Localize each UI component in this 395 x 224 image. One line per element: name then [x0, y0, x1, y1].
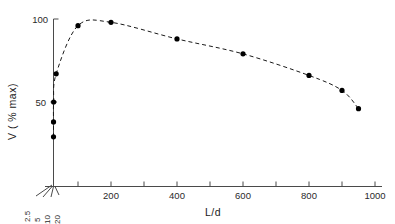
data-point	[51, 119, 56, 124]
origin-label-5: 5	[33, 217, 42, 222]
data-point	[108, 20, 113, 25]
y-axis-title: V ( % max)	[6, 83, 18, 140]
y-tick-label-50: 50	[35, 97, 46, 108]
data-point	[306, 73, 311, 78]
x-tick-label-400: 400	[169, 190, 185, 201]
data-point	[51, 134, 56, 139]
origin-label-2_5: 2.5	[23, 210, 32, 222]
data-point	[54, 71, 59, 76]
data-point	[51, 99, 56, 104]
data-point	[75, 23, 80, 28]
data-point	[240, 51, 245, 56]
x-tick-label-600: 600	[235, 190, 251, 201]
x-axis-title: L/d	[205, 206, 221, 218]
data-point	[174, 36, 179, 41]
origin-label-20: 20	[53, 215, 62, 224]
x-tick-label-200: 200	[103, 190, 119, 201]
data-point	[339, 88, 344, 93]
y-tick-label-100: 100	[32, 14, 48, 25]
plot-area: 100 50 V ( % max) 200 400 600 800 1000 L…	[0, 0, 395, 224]
chart-figure: 100 50 V ( % max) 200 400 600 800 1000 L…	[0, 0, 395, 224]
x-tick-label-1000: 1000	[364, 190, 385, 201]
x-tick-label-800: 800	[301, 190, 317, 201]
data-point	[356, 106, 361, 111]
origin-label-10: 10	[43, 215, 52, 224]
plot-background	[0, 0, 395, 224]
